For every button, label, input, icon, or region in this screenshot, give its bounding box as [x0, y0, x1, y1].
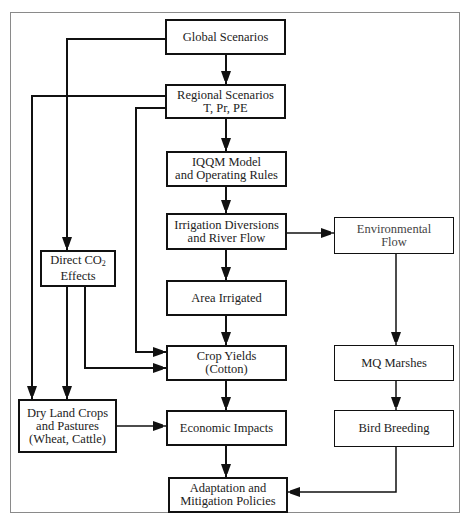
- node-mq-marshes: MQ Marshes: [334, 345, 454, 381]
- edge-global-co2: [67, 39, 165, 250]
- node-label: MQ Marshes: [361, 357, 427, 370]
- node-label: Bird Breeding: [358, 422, 429, 435]
- node-label: Direct CO2: [50, 254, 106, 270]
- node-sublabel: Flow: [381, 236, 407, 249]
- node-environmental-flow: Environmental Flow: [334, 217, 454, 254]
- edge-co2-crop: [85, 286, 166, 368]
- node-label: Regional Scenarios: [177, 89, 274, 102]
- node-adaptation-mitigation: Adaptation and Mitigation Policies: [168, 477, 288, 513]
- node-sublabel: Effects: [60, 270, 95, 283]
- node-sublabel: (Cotton): [205, 363, 247, 376]
- node-sublabel: Mitigation Policies: [180, 495, 275, 508]
- edge-bird-adaptation: [287, 446, 396, 492]
- co2-text: Direct CO: [50, 253, 102, 267]
- node-dry-land-crops: Dry Land Crops and Pastures (Wheat, Catt…: [18, 399, 117, 453]
- edge-regional-dryland: [32, 96, 165, 399]
- node-iqqm-model: IQQM Model and Operating Rules: [166, 151, 287, 187]
- node-sublabel: and River Flow: [188, 232, 266, 245]
- node-sublabel: (Wheat, Cattle): [29, 433, 106, 446]
- flowchart: Global Scenarios Regional Scenarios T, P…: [0, 0, 471, 527]
- node-label: Global Scenarios: [183, 31, 269, 44]
- node-label: Economic Impacts: [180, 422, 273, 435]
- node-label: Environmental: [357, 223, 431, 236]
- node-label: Dry Land Crops: [27, 407, 108, 420]
- node-sublabel: T, Pr, PE: [203, 102, 247, 115]
- node-sublabel: and Pastures: [36, 420, 99, 433]
- node-label: Area Irrigated: [191, 292, 261, 305]
- node-economic-impacts: Economic Impacts: [166, 410, 287, 446]
- node-area-irrigated: Area Irrigated: [166, 280, 287, 316]
- edge-regional-crop: [136, 108, 166, 352]
- co2-subscript: 2: [102, 259, 106, 268]
- node-regional-scenarios: Regional Scenarios T, Pr, PE: [165, 84, 286, 119]
- node-sublabel: and Operating Rules: [175, 169, 278, 182]
- node-direct-co2-effects: Direct CO2 Effects: [40, 250, 116, 287]
- node-label: Irrigation Diversions: [174, 219, 279, 232]
- node-crop-yields: Crop Yields (Cotton): [166, 345, 287, 381]
- node-irrigation-diversions: Irrigation Diversions and River Flow: [166, 213, 287, 250]
- node-bird-breeding: Bird Breeding: [334, 410, 454, 447]
- node-global-scenarios: Global Scenarios: [165, 19, 286, 55]
